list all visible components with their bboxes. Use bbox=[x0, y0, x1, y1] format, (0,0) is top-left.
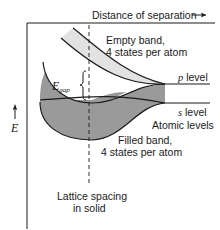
atomic-levels-label: Atomic levels bbox=[152, 119, 214, 131]
s-level-label: s level bbox=[178, 106, 207, 119]
empty-band-label-line2: 4 states per atom bbox=[106, 46, 187, 58]
p-level-text: level bbox=[186, 71, 208, 83]
lattice-label-line2: in solid bbox=[73, 202, 106, 214]
gap-label-sub: gap bbox=[59, 86, 70, 94]
filled-band-label-line2: 4 states per atom bbox=[101, 146, 182, 158]
s-level-symbol: s bbox=[178, 107, 182, 118]
energy-axis-label: E bbox=[11, 122, 18, 134]
p-level-label: p level bbox=[178, 71, 208, 84]
lattice-label-line1: Lattice spacing bbox=[57, 190, 127, 202]
p-level-symbol: p bbox=[178, 72, 183, 83]
gap-bracket bbox=[80, 71, 86, 100]
gap-label: Egap bbox=[52, 80, 70, 94]
s-level-text: level bbox=[185, 106, 207, 118]
empty-band-label-line1: Empty band, bbox=[106, 34, 165, 46]
x-axis-label: Distance of separation bbox=[92, 9, 196, 21]
filled-band-label-line1: Filled band, bbox=[118, 134, 172, 146]
